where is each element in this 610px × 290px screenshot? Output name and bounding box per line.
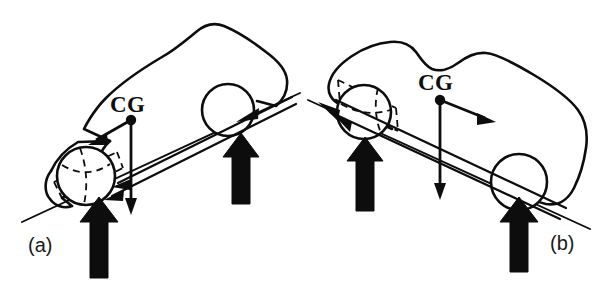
front-normal-force-arrow-b (347, 137, 383, 211)
weight-arrowhead-a (125, 198, 137, 215)
panel-a: (a) CG (22, 24, 300, 278)
weight-arrowhead-b (434, 183, 446, 200)
panel-b: (b) CG (308, 42, 590, 272)
force-diagram-svg: (a) CG (0, 0, 610, 290)
rear-normal-force-arrow-b (500, 197, 538, 272)
front-normal-force-arrow-a (80, 197, 118, 278)
inertia-force-arrowhead-b (477, 113, 496, 125)
cg-label-b: CG (418, 70, 454, 95)
cg-label-a: CG (110, 92, 146, 117)
panel-label-a: (a) (28, 234, 52, 256)
panel-label-b: (b) (550, 232, 574, 254)
figure-container: (a) CG (0, 0, 610, 290)
rear-normal-force-arrow-a (223, 133, 259, 204)
